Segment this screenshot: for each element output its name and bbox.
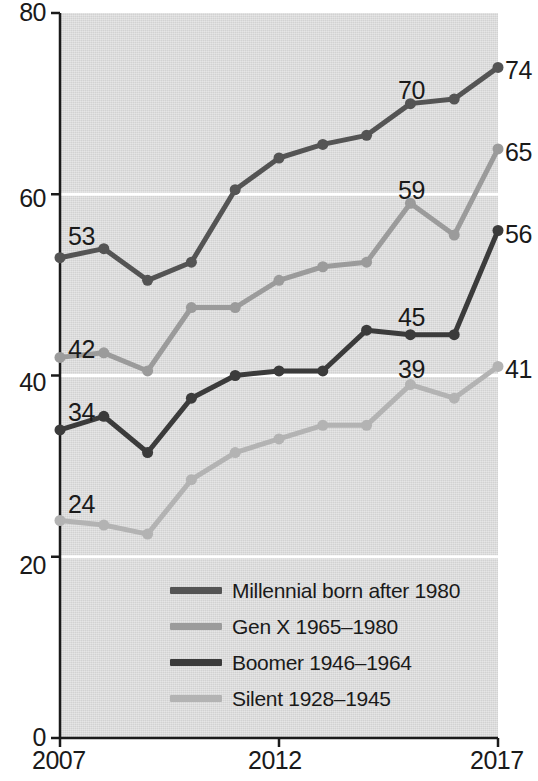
data-point [361,257,372,268]
y-tick-label-80: 80 [0,0,46,25]
data-point [317,139,328,150]
data-point [55,252,66,263]
legend-swatch-genx [170,623,222,630]
value-label-silent-end: 41 [505,357,532,382]
legend-swatch-silent [170,695,222,702]
data-point [274,275,285,286]
legend-item-millennial[interactable]: Millennial born after 1980 [170,572,500,608]
value-label-millennial-2015: 70 [398,78,425,103]
data-point [493,361,504,372]
legend-label-silent: Silent 1928–1945 [232,688,391,709]
y-tick-label-60: 60 [0,186,46,211]
series-lines [55,62,504,540]
data-point [361,130,372,141]
value-label-genx-end: 65 [505,140,532,165]
data-point [98,520,109,531]
data-point [230,447,241,458]
data-point [186,302,197,313]
data-point [55,352,66,363]
value-label-millennial-start: 53 [68,224,95,249]
data-point [493,62,504,73]
data-point [493,225,504,236]
legend-label-genx: Gen X 1965–1980 [232,616,398,637]
data-point [449,230,460,241]
value-label-boomer-2015: 45 [398,305,425,330]
data-point [142,447,153,458]
data-point [274,365,285,376]
legend-item-silent[interactable]: Silent 1928–1945 [170,680,500,716]
data-point [186,257,197,268]
data-point [317,420,328,431]
data-point [230,302,241,313]
value-label-boomer-end: 56 [505,222,532,247]
data-point [274,153,285,164]
value-label-silent-2015: 39 [398,357,425,382]
x-tick-label-2012: 2012 [248,748,302,773]
legend-label-boomer: Boomer 1946–1964 [232,652,412,673]
value-label-genx-start: 42 [68,337,95,362]
y-tick-label-40: 40 [0,370,46,395]
data-point [361,420,372,431]
data-point [98,243,109,254]
data-point [186,474,197,485]
data-point [274,433,285,444]
data-point [230,370,241,381]
data-point [98,411,109,422]
series-line-3 [60,366,498,534]
data-point [493,143,504,154]
data-point [230,184,241,195]
data-point [317,261,328,272]
line-chart: 80 60 40 20 0 2007 2012 2017 53 42 34 24… [0,0,538,781]
data-point [142,365,153,376]
x-tick-label-2017: 2017 [470,748,524,773]
series-line-1 [60,149,498,371]
legend-item-boomer[interactable]: Boomer 1946–1964 [170,644,500,680]
value-label-silent-start: 24 [68,492,95,517]
data-point [55,515,66,526]
data-point [142,275,153,286]
data-point [186,393,197,404]
data-point [142,529,153,540]
x-tick-label-2007: 2007 [32,748,86,773]
legend-item-genx[interactable]: Gen X 1965–1980 [170,608,500,644]
chart-legend: Millennial born after 1980 Gen X 1965–19… [170,572,500,716]
data-point [55,424,66,435]
data-point [449,329,460,340]
data-point [98,347,109,358]
data-point [317,365,328,376]
series-line-0 [60,67,498,280]
data-point [449,393,460,404]
y-tick-label-20: 20 [0,553,46,578]
data-point [449,94,460,105]
data-point [361,325,372,336]
value-label-boomer-start: 34 [68,400,95,425]
value-label-millennial-end: 74 [505,58,532,83]
legend-swatch-boomer [170,659,222,666]
value-label-genx-2015: 59 [398,178,425,203]
legend-swatch-millennial [170,587,222,594]
legend-label-millennial: Millennial born after 1980 [232,580,460,601]
